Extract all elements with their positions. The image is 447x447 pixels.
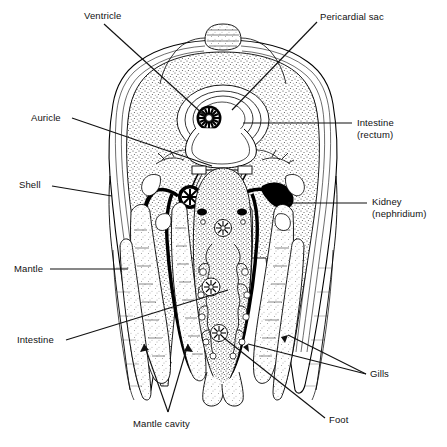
label-intestine: Intestine	[17, 334, 54, 346]
label-intestine-text: Intestine	[17, 334, 54, 345]
label-intestine-rectum-text: Intestine	[357, 117, 394, 129]
label-intestine-rectum: Intestine (rectum)	[357, 117, 394, 140]
label-kidney: Kidney (nephridium)	[372, 196, 427, 219]
label-ventricle-text: Ventricle	[84, 10, 121, 21]
label-gills: Gills	[370, 368, 389, 380]
label-foot-text: Foot	[329, 414, 348, 425]
label-gills-text: Gills	[370, 368, 389, 379]
ventricle	[197, 106, 222, 131]
label-mantle: Mantle	[14, 263, 43, 275]
label-pericardial-sac-text: Pericardial sac	[320, 11, 384, 22]
bivalve-anatomy-figure	[0, 0, 447, 447]
label-shell: Shell	[19, 179, 41, 191]
label-intestine-rectum-subtext: (rectum)	[357, 129, 394, 141]
label-foot: Foot	[329, 414, 348, 426]
label-ventricle: Ventricle	[84, 10, 121, 22]
label-mantle-text: Mantle	[14, 263, 43, 274]
label-mantle-cavity-text: Mantle cavity	[133, 418, 190, 429]
label-auricle: Auricle	[31, 112, 61, 124]
diagram-stage: Ventricle Pericardial sac Auricle Intest…	[0, 0, 447, 447]
label-pericardial-sac: Pericardial sac	[320, 11, 384, 23]
label-auricle-text: Auricle	[31, 112, 61, 123]
label-kidney-subtext: (nephridium)	[372, 208, 427, 220]
label-kidney-text: Kidney	[372, 196, 427, 208]
label-mantle-cavity: Mantle cavity	[133, 418, 190, 430]
label-shell-text: Shell	[19, 179, 41, 190]
